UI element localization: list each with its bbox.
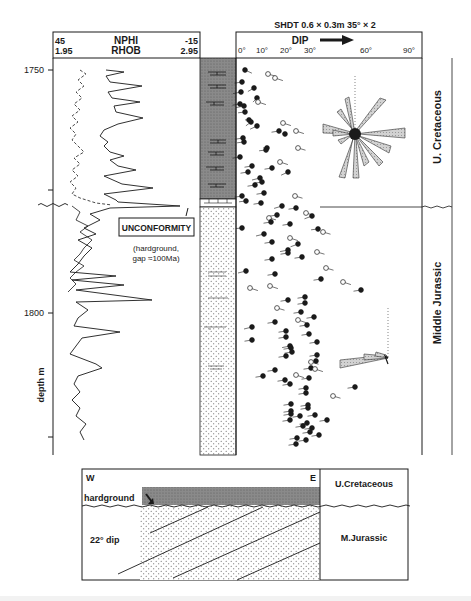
tadpole-open-icon	[321, 230, 326, 235]
tadpole-filled-icon	[319, 277, 324, 282]
tadpole-filled-icon	[313, 413, 318, 418]
tadpole-filled-icon	[243, 68, 248, 73]
tadpole-filled-icon	[308, 430, 313, 435]
rhob-right-scale: 2.95	[180, 46, 198, 56]
tadpole-open-icon	[296, 318, 301, 323]
dip-tadpoles	[233, 68, 364, 447]
tadpole-filled-icon	[250, 338, 255, 343]
tadpole-filled-icon	[242, 104, 247, 109]
tadpole-filled-icon	[280, 204, 285, 209]
tadpole-open-icon	[281, 121, 286, 126]
tadpole-filled-icon	[286, 298, 291, 303]
tadpole-filled-icon	[294, 206, 299, 211]
tadpole-open-icon	[324, 266, 329, 271]
dip-annotation: 22° dip	[90, 535, 120, 545]
dip-tick-20: 20°	[280, 46, 292, 55]
tadpole-filled-icon	[288, 382, 293, 387]
tadpole-filled-icon	[284, 329, 289, 334]
tadpole-filled-icon	[273, 320, 278, 325]
tadpole-filled-icon	[284, 335, 289, 340]
nphi-curve	[70, 70, 112, 205]
tadpole-filled-icon	[307, 332, 312, 337]
tadpole-filled-icon	[304, 386, 309, 391]
tadpole-filled-icon	[301, 424, 306, 429]
east-label: E	[310, 473, 316, 483]
dip-tick-90: 90°	[403, 46, 415, 55]
tadpole-filled-icon	[244, 269, 249, 274]
tadpole-filled-icon	[252, 86, 257, 91]
tadpole-filled-icon	[273, 272, 278, 277]
tadpole-filled-icon	[283, 378, 288, 383]
tadpole-filled-icon	[284, 354, 289, 359]
tadpole-filled-icon	[277, 129, 282, 134]
tadpole-open-icon	[315, 250, 320, 255]
dip-axis-label: DIP	[292, 35, 309, 46]
tadpole-filled-icon	[270, 257, 275, 262]
tadpole-filled-icon	[244, 199, 249, 204]
jurassic-sandstone	[140, 506, 320, 580]
tadpole-filled-icon	[250, 325, 255, 330]
tadpole-open-icon	[268, 284, 273, 289]
tadpole-open-icon	[293, 194, 298, 199]
tadpole-filled-icon	[298, 414, 303, 419]
tadpole-open-icon	[304, 211, 309, 216]
tadpole-filled-icon	[275, 213, 280, 218]
tadpole-filled-icon	[290, 350, 295, 355]
tadpole-filled-icon	[269, 220, 274, 225]
west-label: W	[86, 473, 95, 483]
log-panel: 45 NPHI -15 1.95 RHOB 2.95 1750 1800 dep…	[24, 32, 200, 455]
tadpole-filled-icon	[261, 374, 266, 379]
tadpole-filled-icon	[239, 90, 244, 95]
cross-section-upper-unit: U.Cretaceous	[335, 479, 393, 489]
tadpole-filled-icon	[305, 323, 310, 328]
tadpole-filled-icon	[288, 222, 293, 227]
tadpole-filled-icon	[255, 124, 260, 129]
stratigraphy-column: U. Cretaceous Middle Jurassic	[422, 58, 452, 455]
tadpole-filled-icon	[295, 436, 300, 441]
tadpole-open-icon	[256, 100, 261, 105]
tadpole-filled-icon	[270, 240, 275, 245]
dip-tick-0: 0°	[238, 46, 246, 55]
dip-tick-10: 10°	[256, 46, 268, 55]
rose-diagram-cretaceous	[323, 76, 405, 178]
tadpole-filled-icon	[315, 353, 320, 358]
tadpole-filled-icon	[325, 418, 330, 423]
lithology-column	[200, 58, 236, 455]
unconformity-label: UNCONFORMITY	[122, 223, 192, 233]
tadpole-open-icon	[294, 373, 299, 378]
depth-ticks	[48, 70, 53, 437]
cretaceous-layer	[142, 487, 320, 505]
tadpole-filled-icon	[307, 376, 312, 381]
tadpole-filled-icon	[273, 368, 278, 373]
tadpole-filled-icon	[270, 166, 275, 171]
tadpole-filled-icon	[240, 194, 245, 199]
nphi-left-scale: 45	[55, 36, 65, 46]
tadpole-filled-icon	[243, 110, 248, 115]
tadpole-filled-icon	[260, 180, 265, 185]
tadpole-filled-icon	[315, 340, 320, 345]
unconformity-pointer	[186, 208, 188, 216]
tadpole-filled-icon	[238, 155, 243, 160]
tadpole-filled-icon	[283, 132, 288, 137]
tadpole-filled-icon	[303, 295, 308, 300]
depth-axis-label: depth m	[36, 368, 46, 403]
cross-section: W E hardground 22° dip U.Cretaceous M.Ju…	[82, 469, 410, 580]
tadpole-filled-icon	[294, 442, 299, 447]
tadpole-filled-icon	[288, 418, 293, 423]
tadpole-open-icon	[278, 160, 283, 165]
tadpole-filled-icon	[300, 255, 305, 260]
tadpole-open-icon	[313, 367, 318, 372]
tadpole-filled-icon	[312, 315, 317, 320]
dipmeter-title: SHDT 0.6 × 0.3m 35° × 2	[274, 20, 376, 30]
tadpole-open-icon	[331, 394, 336, 399]
dip-tick-60: 60°	[360, 46, 372, 55]
tadpole-filled-icon	[264, 148, 269, 153]
tadpole-filled-icon	[359, 288, 364, 293]
tadpole-open-icon	[341, 280, 346, 285]
figure: 45 NPHI -15 1.95 RHOB 2.95 1750 1800 dep…	[0, 0, 471, 601]
sandstone-interval	[200, 207, 236, 455]
tadpole-filled-icon	[296, 242, 301, 247]
tadpole-open-icon	[266, 72, 271, 77]
tadpole-filled-icon	[306, 406, 311, 411]
rhob-left-scale: 1.95	[55, 46, 73, 56]
